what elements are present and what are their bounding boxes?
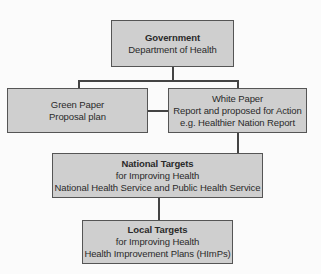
node-line: for Improving Health [116, 236, 200, 248]
node-title: Government [145, 32, 200, 44]
node-line: White Paper [212, 93, 263, 105]
connector-government-down [172, 67, 174, 80]
connector-to-white-paper [237, 80, 239, 88]
connector-national-to-local [158, 198, 160, 220]
connector-white-to-national [237, 133, 239, 153]
connector-to-green-paper [78, 80, 80, 88]
node-title: National Targets [121, 158, 193, 170]
node-line: National Health Service and Public Healt… [55, 182, 261, 194]
node-line: Green Paper [51, 99, 104, 111]
node-white-paper: White Paper Report and proposed for Acti… [168, 88, 307, 133]
node-line: Health Improvement Plans (HImPs) [84, 248, 230, 260]
node-line: for Improving Health [116, 170, 200, 182]
node-line: Department of Health [128, 44, 216, 56]
connector-green-to-white [148, 110, 168, 112]
node-green-paper: Green Paper Proposal plan [7, 88, 148, 133]
node-national-targets: National Targets for Improving Health Na… [52, 153, 263, 198]
node-title: Local Targets [128, 224, 188, 236]
node-local-targets: Local Targets for Improving Health Healt… [82, 220, 233, 264]
node-line: Report and proposed for Action [173, 105, 302, 117]
node-line: e.g. Healthier Nation Report [180, 117, 295, 129]
connector-branch-horizontal [78, 80, 238, 82]
node-line: Proposal plan [49, 111, 106, 123]
node-government: Government Department of Health [111, 20, 234, 67]
